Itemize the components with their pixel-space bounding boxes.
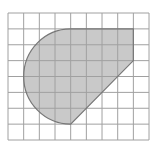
grid-diagram xyxy=(0,0,168,146)
